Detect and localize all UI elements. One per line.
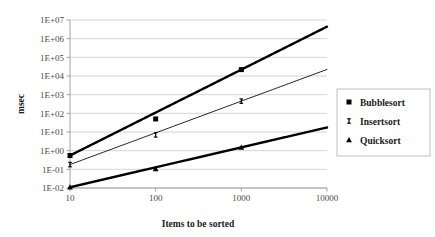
chart-container: 1E-021E-011E+001E+011E+021E+031E+041E+05… — [0, 0, 435, 237]
y-tick-label: 1E-01 — [42, 165, 64, 175]
y-tick-label: 1E+03 — [40, 90, 65, 100]
y-tick-label: 1E+06 — [40, 34, 65, 44]
y-tick-label: 1E-02 — [42, 183, 64, 193]
y-tick-label: 1E+05 — [40, 53, 65, 63]
y-tick-label: 1E+02 — [40, 109, 64, 119]
legend-item-label: Quicksort — [360, 136, 401, 146]
chart-legend: BubblesortInsertsortQuicksort — [337, 89, 430, 156]
marker-square — [68, 153, 73, 158]
legend-item-label: Insertsort — [360, 117, 401, 127]
x-tick-label: 10 — [66, 193, 76, 203]
sorting-performance-chart: 1E-021E-011E+001E+011E+021E+031E+041E+05… — [0, 0, 435, 237]
y-tick-label: 1E+00 — [40, 146, 65, 156]
legend-item-label: Bubblesort — [360, 98, 406, 108]
marker-square — [239, 67, 244, 72]
y-tick-label: 1E+01 — [40, 127, 64, 137]
y-tick-label: 1E+04 — [40, 71, 65, 81]
x-tick-label: 10000 — [316, 193, 339, 203]
x-axis-title-text: Items to be sorted — [162, 219, 235, 229]
marker-square — [347, 100, 352, 105]
marker-square — [153, 116, 158, 121]
y-axis-title: msec — [16, 94, 26, 114]
x-tick-label: 1000 — [232, 193, 251, 203]
x-axis-title: Items to be sorted — [162, 219, 235, 229]
y-tick-label: 1E+07 — [40, 15, 65, 25]
x-tick-label: 100 — [149, 193, 163, 203]
y-axis-title-text: msec — [16, 94, 26, 114]
